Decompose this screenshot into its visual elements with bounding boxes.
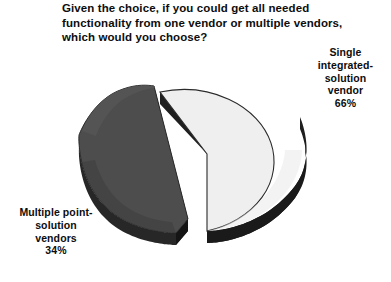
pie-chart-figure: Given the choice, if you could get all n… [0,0,391,282]
pie-label-multiple-point-solution-vendors: Multiple point- solution vendors 34% [2,206,110,257]
pie-label-single-integrated-solution-vendor: Single integrated- solution vendor 66% [300,46,391,110]
